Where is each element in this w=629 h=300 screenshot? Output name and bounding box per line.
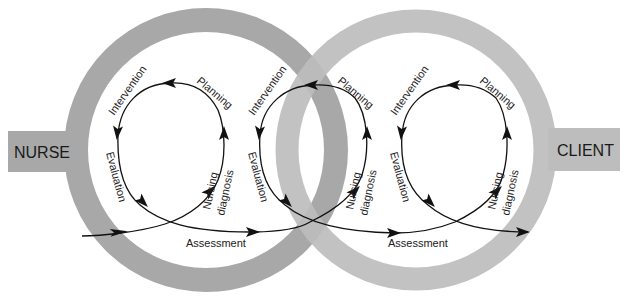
label-evaluation: Evaluation xyxy=(388,150,413,203)
nurse-label: NURSE xyxy=(14,144,70,161)
label-assessment: Assessment xyxy=(388,237,448,249)
nurse-loop-labels: Intervention Planning Evaluation Nursing… xyxy=(104,63,246,249)
label-assessment: Assessment xyxy=(186,237,246,249)
label-evaluation: Evaluation xyxy=(246,150,271,203)
label-evaluation: Evaluation xyxy=(104,150,129,203)
client-label: CLIENT xyxy=(557,142,614,159)
nurse-client-diagram: NURSE CLIENT Intervention Planning Evalu… xyxy=(0,0,629,300)
arrow-icon xyxy=(396,126,407,141)
arrow-icon xyxy=(112,126,123,141)
label-planning: Planning xyxy=(336,74,377,111)
arrow-icon xyxy=(254,126,265,141)
